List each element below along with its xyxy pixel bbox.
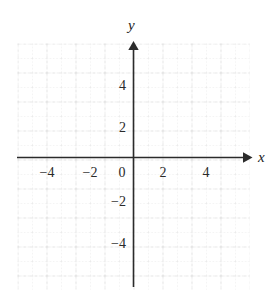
y-tick-label-pos4: 4 (108, 79, 126, 93)
x-tick-label-neg4: −4 (40, 166, 55, 180)
x-tick-label-pos2: 2 (160, 166, 167, 180)
y-tick-label-neg2: −2 (100, 195, 126, 209)
y-tick-label-pos2: 2 (108, 121, 126, 135)
graph-figure: x y −4 −2 0 2 4 4 2 −2 −4 (0, 0, 277, 304)
coordinate-plane-svg (0, 0, 277, 304)
x-axis-label: x (258, 150, 265, 165)
y-axis-label: y (128, 18, 135, 33)
x-tick-label-pos4: 4 (203, 166, 210, 180)
y-tick-label-neg4: −4 (100, 237, 126, 251)
x-tick-label-neg2: −2 (83, 166, 98, 180)
x-tick-label-zero: 0 (119, 166, 126, 180)
